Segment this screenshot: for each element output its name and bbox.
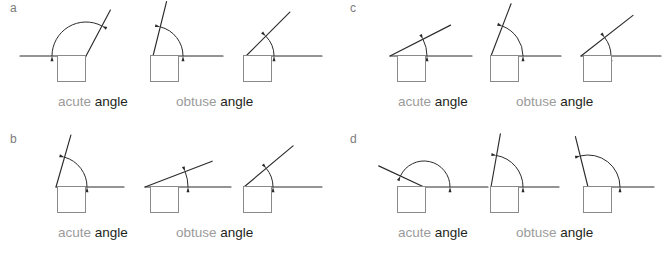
answer-box[interactable]: [583, 186, 612, 213]
acute-angle-label: acute angle: [398, 92, 468, 112]
angle-word: angle: [220, 225, 253, 240]
obtuse-keyword: obtuse: [516, 225, 557, 240]
acute-angle-label: acute angle: [58, 92, 128, 112]
acute-keyword: acute: [58, 94, 91, 109]
figure-row-c: [340, 0, 666, 100]
acute-keyword: acute: [58, 225, 91, 240]
angle-word: angle: [560, 94, 593, 109]
answer-box[interactable]: [397, 186, 426, 213]
answer-box[interactable]: [243, 186, 272, 213]
obtuse-angle-label: obtuse angle: [176, 223, 253, 243]
angle-word: angle: [95, 225, 128, 240]
angle-word: angle: [220, 94, 253, 109]
figure-row-b: [0, 131, 329, 231]
angle-word: angle: [435, 225, 468, 240]
acute-keyword: acute: [398, 225, 431, 240]
angle-word: angle: [435, 94, 468, 109]
figure-row-a: [0, 0, 329, 100]
answer-box-row-c: [340, 55, 666, 85]
figure-row-d: [340, 131, 666, 231]
answer-box[interactable]: [490, 55, 519, 82]
answer-box[interactable]: [150, 186, 179, 213]
obtuse-keyword: obtuse: [516, 94, 557, 109]
label-row-b: acute angle obtuse angle: [0, 223, 329, 243]
answer-box[interactable]: [243, 55, 272, 82]
obtuse-angle-label: obtuse angle: [516, 92, 593, 112]
answer-box[interactable]: [583, 55, 612, 82]
acute-angle-label: acute angle: [58, 223, 128, 243]
obtuse-angle-label: obtuse angle: [516, 223, 593, 243]
answer-box[interactable]: [57, 55, 86, 82]
angle-word: angle: [95, 94, 128, 109]
answer-box[interactable]: [150, 55, 179, 82]
panel-a: a acute angle obtuse angle: [0, 0, 329, 135]
label-row-a: acute angle obtuse angle: [0, 92, 329, 112]
label-row-d: acute angle obtuse angle: [340, 223, 666, 243]
answer-box[interactable]: [490, 186, 519, 213]
panel-d: d acute angle obtuse angle: [340, 131, 666, 266]
answer-box[interactable]: [397, 55, 426, 82]
panel-c: c acute angle obtuse angle: [340, 0, 666, 135]
acute-keyword: acute: [398, 94, 431, 109]
answer-box-row-b: [0, 186, 329, 216]
answer-box-row-d: [340, 186, 666, 216]
obtuse-angle-label: obtuse angle: [176, 92, 253, 112]
panel-b: b acute angle obtuse angle: [0, 131, 329, 266]
answer-box[interactable]: [57, 186, 86, 213]
label-row-c: acute angle obtuse angle: [340, 92, 666, 112]
obtuse-keyword: obtuse: [176, 94, 217, 109]
acute-angle-label: acute angle: [398, 223, 468, 243]
angle-word: angle: [560, 225, 593, 240]
answer-box-row-a: [0, 55, 329, 85]
obtuse-keyword: obtuse: [176, 225, 217, 240]
